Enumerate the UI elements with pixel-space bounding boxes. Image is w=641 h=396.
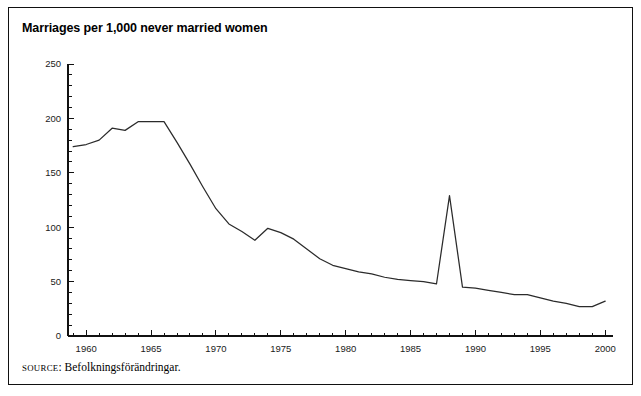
- data-series-group: [73, 122, 605, 307]
- x-tick-label: 2000: [595, 343, 616, 354]
- y-axis: 050100150200250: [45, 58, 74, 341]
- y-tick-label: 150: [45, 167, 61, 178]
- x-axis: 196019651970197519801985199019952000: [68, 330, 616, 354]
- y-tick-label: 0: [56, 330, 61, 341]
- y-tick-label: 100: [45, 222, 61, 233]
- y-tick-label: 200: [45, 113, 61, 124]
- x-tick-label: 1980: [335, 343, 356, 354]
- line-chart-plot: 050100150200250 196019651970197519801985…: [0, 0, 641, 396]
- x-tick-label: 1960: [76, 343, 97, 354]
- y-tick-label: 250: [45, 58, 61, 69]
- x-tick-label: 1995: [530, 343, 551, 354]
- series-line: [73, 122, 605, 307]
- source-value: Befolkningsförändringar.: [62, 361, 181, 373]
- x-tick-label: 1975: [270, 343, 291, 354]
- x-tick-label: 1965: [140, 343, 161, 354]
- x-tick-label: 1990: [465, 343, 486, 354]
- x-tick-label: 1985: [400, 343, 421, 354]
- x-tick-label: 1970: [205, 343, 226, 354]
- chart-figure: Marriages per 1,000 never married women …: [0, 0, 641, 396]
- source-label: SOURCE: [22, 363, 59, 373]
- y-tick-label: 50: [50, 276, 61, 287]
- source-note: SOURCE: Befolkningsförändringar.: [22, 361, 181, 373]
